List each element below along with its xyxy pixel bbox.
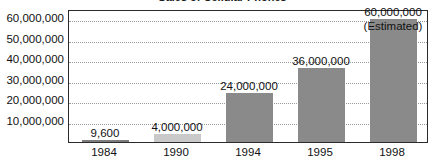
bars-layer	[69, 11, 427, 142]
x-tick-label: 1984	[91, 146, 117, 158]
plot-area: 9,6004,000,00024,000,00036,000,00060,000…	[68, 10, 428, 143]
bar	[154, 134, 201, 142]
x-tick-label: 1995	[307, 146, 333, 158]
bar	[82, 140, 129, 143]
bar	[226, 93, 273, 142]
y-tick-label: 30,000,000	[0, 74, 64, 86]
x-tick-label: 1998	[379, 146, 405, 158]
y-tick-label: 60,000,000	[0, 12, 64, 24]
x-tick-label: 1994	[235, 146, 261, 158]
x-tick-label: 1990	[163, 146, 189, 158]
y-axis: 60,000,00050,000,00040,000,00030,000,000…	[0, 8, 64, 143]
chart-title: Sales of Cellular Phones	[0, 0, 445, 3]
y-tick-label: 10,000,000	[0, 115, 64, 127]
y-tick-label: 20,000,000	[0, 94, 64, 106]
x-axis: 19841990199419951998	[68, 146, 428, 164]
bar	[298, 68, 345, 142]
bar	[370, 19, 417, 142]
y-tick-label: 40,000,000	[0, 53, 64, 65]
y-tick-label: 50,000,000	[0, 33, 64, 45]
bar-chart: Sales of Cellular Phones 60,000,00050,00…	[0, 0, 445, 167]
